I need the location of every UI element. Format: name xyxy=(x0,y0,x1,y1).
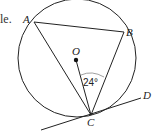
chord-ac xyxy=(34,22,91,115)
center-dot xyxy=(74,58,78,62)
label-a: A xyxy=(23,14,30,25)
label-o: O xyxy=(72,46,80,57)
label-b: B xyxy=(126,27,133,38)
label-d: D xyxy=(143,90,151,101)
label-c: C xyxy=(87,117,94,128)
chord-ab xyxy=(34,22,124,32)
angle-label: 24° xyxy=(83,78,98,88)
